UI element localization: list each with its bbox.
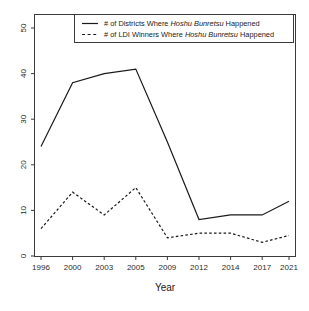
x-tick-label: 2014: [222, 263, 240, 272]
y-tick-label: 40: [19, 69, 28, 78]
x-axis-ticks: [41, 257, 289, 261]
x-tick-label: 2021: [280, 263, 298, 272]
y-tick-label: 10: [19, 205, 28, 214]
y-tick-label: 50: [19, 23, 28, 32]
y-tick-label: 30: [19, 114, 28, 123]
legend-suffix-districts: Happened: [224, 19, 260, 28]
chart-figure: 0 10 20 30 40 50 1996 2000 2003 2005 200…: [0, 0, 309, 311]
x-tick-label: 2000: [64, 263, 82, 272]
y-tick-label: 20: [19, 160, 28, 169]
legend-emphasis-districts: Hoshu Bunretsu: [171, 19, 224, 28]
line-chart: 0 10 20 30 40 50 1996 2000 2003 2005 200…: [0, 0, 309, 311]
y-axis-ticks: [31, 28, 35, 256]
x-tick-label: 2005: [127, 263, 145, 272]
legend-label-ldi-winners: # of LDI Winners Where Hoshu Bunretsu Ha…: [104, 30, 274, 39]
x-tick-label: 1996: [32, 263, 50, 272]
x-axis-tick-labels: 1996 2000 2003 2005 2009 2012 2014 2017 …: [32, 263, 298, 272]
x-tick-label: 2017: [253, 263, 271, 272]
x-axis-title: Year: [155, 282, 176, 293]
legend-prefix-districts: # of Districts Where: [104, 19, 171, 28]
legend-prefix-ldi: # of LDI Winners Where: [104, 30, 185, 39]
chart-legend: # of Districts Where Hoshu Bunretsu Happ…: [75, 15, 294, 43]
series-districts-line: [41, 69, 289, 219]
legend-emphasis-ldi: Hoshu Bunretsu: [185, 30, 238, 39]
x-tick-label: 2012: [190, 263, 208, 272]
y-tick-label: 0: [19, 253, 28, 258]
legend-suffix-ldi: Happened: [238, 30, 274, 39]
y-axis-tick-labels: 0 10 20 30 40 50: [19, 23, 28, 258]
legend-label-districts: # of Districts Where Hoshu Bunretsu Happ…: [104, 19, 260, 28]
x-tick-label: 2009: [159, 263, 177, 272]
x-tick-label: 2003: [95, 263, 113, 272]
